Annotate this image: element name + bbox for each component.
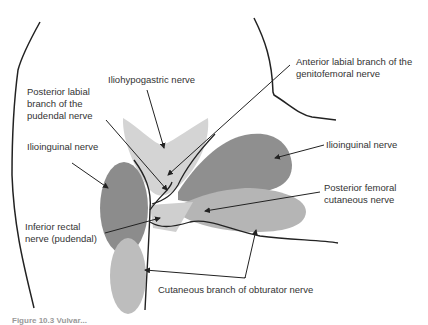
- label-anterior-labial-branch: Anterior labial branch of the genitofemo…: [296, 56, 412, 80]
- nerve-diagram: [0, 0, 428, 325]
- label-inferior-rectal-nerve: Inferior rectal nerve (pudendal): [25, 221, 97, 245]
- label-iliohypogastric-nerve: Iliohypogastric nerve: [108, 74, 195, 86]
- label-ilioinguinal-left: Ilioinguinal nerve: [27, 141, 98, 153]
- leader-ilioinguinal-left: [72, 163, 108, 188]
- leader-obturator: [145, 270, 245, 278]
- figure-caption: Figure 10.3 Vulvar...: [12, 316, 87, 325]
- left-body-outline: [12, 22, 40, 308]
- label-ilioinguinal-right: Ilioinguinal nerve: [326, 139, 397, 151]
- leader-obturator-2: [245, 230, 256, 278]
- label-posterior-labial-branch: Posterior labial branch of the pudendal …: [27, 86, 93, 122]
- label-posterior-femoral-cutaneous: Posterior femoral cutaneous nerve: [324, 182, 396, 206]
- label-obturator-branch: Cutaneous branch of obturator nerve: [158, 284, 313, 296]
- obturator-region: [110, 238, 146, 314]
